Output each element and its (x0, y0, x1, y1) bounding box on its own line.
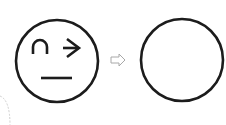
empty-circle (141, 19, 223, 101)
eyebrow-arc-icon (33, 40, 47, 54)
face-icon (16, 20, 98, 102)
hollow-right-arrow-icon (111, 54, 125, 66)
diagram-canvas (0, 0, 226, 125)
dashed-arc (0, 96, 10, 125)
arrow-eye-icon (63, 39, 79, 57)
